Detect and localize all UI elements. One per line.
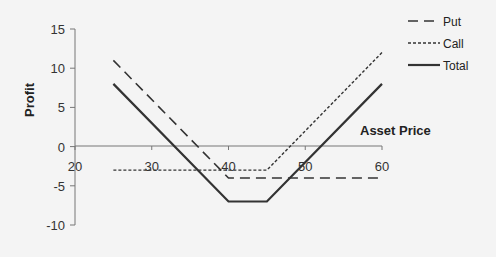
series-lines: [113, 53, 382, 202]
legend: PutCallTotal: [408, 15, 468, 73]
legend-label-call: Call: [443, 37, 464, 51]
series-call: [113, 53, 382, 171]
y-tick-label: 10: [51, 61, 65, 76]
x-tick-label: 40: [221, 159, 235, 174]
x-axis-label: Asset Price: [360, 123, 431, 138]
y-axis: 151050-5-10: [46, 22, 75, 233]
y-tick-label: 5: [58, 100, 65, 115]
legend-label-put: Put: [443, 15, 462, 29]
y-tick-label: 15: [51, 22, 65, 37]
y-axis-label: Profit: [22, 82, 37, 117]
x-tick-label: 20: [68, 159, 82, 174]
x-tick-label: 60: [375, 159, 389, 174]
payoff-chart: 151050-5-10 2030405060 Profit Asset Pric…: [0, 0, 496, 257]
x-tick-label: 30: [145, 159, 159, 174]
y-tick-label: -10: [46, 218, 65, 233]
y-tick-label: -5: [53, 179, 65, 194]
y-tick-label: 0: [58, 140, 65, 155]
legend-label-total: Total: [443, 59, 468, 73]
